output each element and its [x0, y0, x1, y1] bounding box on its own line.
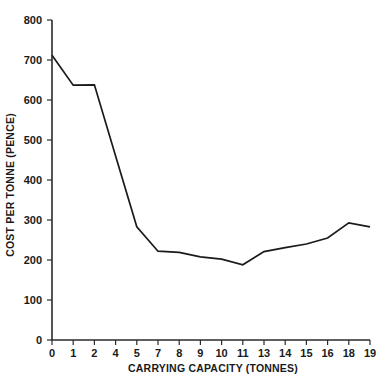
x-tick-label: 16 [321, 347, 333, 359]
y-tick-label: 300 [24, 214, 42, 226]
y-tick-label: 100 [24, 294, 42, 306]
x-tick-label: 15 [300, 347, 312, 359]
x-tick-label: 1 [70, 347, 76, 359]
chart-axes [52, 20, 370, 340]
x-tick-label: 11 [237, 347, 249, 359]
y-tick-label: 500 [24, 134, 42, 146]
x-tick-label: 9 [197, 347, 203, 359]
x-tick-label: 19 [364, 347, 376, 359]
y-tick-label: 200 [24, 254, 42, 266]
x-tick-label: 13 [258, 347, 270, 359]
x-tick-label: 5 [134, 347, 140, 359]
x-axis-tick-labels: 012457891011131415161819 [49, 347, 376, 359]
data-series-line [52, 55, 370, 265]
y-tick-label: 800 [24, 14, 42, 26]
x-tick-label: 10 [215, 347, 227, 359]
chart-container: 0100200300400500600700800 01245789101113… [0, 0, 383, 379]
y-axis-title: COST PER TONNE (PENCE) [4, 113, 16, 257]
y-tick-label: 0 [36, 334, 42, 346]
x-tick-label: 18 [343, 347, 355, 359]
y-tick-label: 600 [24, 94, 42, 106]
line-chart: 0100200300400500600700800 01245789101113… [0, 0, 383, 379]
x-tick-label: 2 [91, 347, 97, 359]
x-tick-label: 14 [279, 347, 292, 359]
y-axis-tick-labels: 0100200300400500600700800 [24, 14, 42, 346]
x-tick-label: 8 [176, 347, 182, 359]
x-tick-label: 0 [49, 347, 55, 359]
x-axis-title: CARRYING CAPACITY (TONNES) [128, 362, 298, 374]
x-tick-label: 4 [113, 347, 120, 359]
x-tick-label: 7 [155, 347, 161, 359]
y-tick-label: 700 [24, 54, 42, 66]
y-tick-label: 400 [24, 174, 42, 186]
